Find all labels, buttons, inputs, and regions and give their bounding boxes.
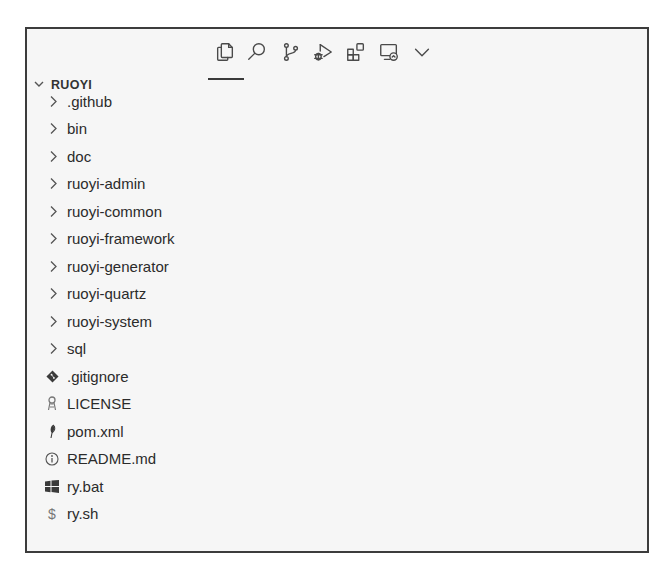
chevron-right-icon (47, 314, 59, 328)
tree-item-label: doc (67, 148, 91, 165)
chevron-right-icon (47, 94, 59, 108)
tree-item-label: README.md (67, 450, 156, 467)
activity-bar (27, 29, 647, 81)
explorer-panel: RUOYI .github bin doc ruoyi-admin ruoyi-… (25, 27, 649, 553)
run-debug-button[interactable] (309, 39, 337, 65)
tree-folder-ruoyi-common[interactable]: ruoyi-common (27, 199, 647, 223)
remote-explorer-icon (378, 41, 400, 63)
source-control-button[interactable] (277, 39, 305, 65)
chevron-right-icon (47, 232, 59, 246)
tree-item-label: ruoyi-quartz (67, 285, 146, 302)
tree-file-readme[interactable]: README.md (27, 447, 647, 471)
extensions-icon (345, 41, 367, 63)
license-icon (44, 396, 60, 412)
tree-item-label: ruoyi-framework (67, 230, 175, 247)
tree-file-ry-bat[interactable]: ry.bat (27, 474, 647, 498)
tree-file-pom-xml[interactable]: pom.xml (27, 419, 647, 443)
chevron-right-icon (47, 287, 59, 301)
tree-folder-ruoyi-framework[interactable]: ruoyi-framework (27, 227, 647, 251)
tree-item-label: ruoyi-common (67, 203, 162, 220)
chevron-right-icon (47, 342, 59, 356)
tree-file-license[interactable]: LICENSE (27, 392, 647, 416)
tree-folder-ruoyi-generator[interactable]: ruoyi-generator (27, 254, 647, 278)
source-control-icon (280, 41, 302, 63)
tree-folder-ruoyi-system[interactable]: ruoyi-system (27, 309, 647, 333)
tree-item-label: LICENSE (67, 395, 131, 412)
tree-file-gitignore[interactable]: .gitignore (27, 364, 647, 388)
chevron-right-icon (47, 259, 59, 273)
tree-item-label: ruoyi-system (67, 313, 152, 330)
git-icon (44, 368, 60, 384)
tree-folder-doc[interactable]: doc (27, 144, 647, 168)
chevron-right-icon (47, 122, 59, 136)
active-tab-indicator (208, 78, 244, 80)
tree-item-label: sql (67, 340, 86, 357)
remote-explorer-button[interactable] (375, 39, 403, 65)
tree-folder-sql[interactable]: sql (27, 337, 647, 361)
tree-item-label: ruoyi-admin (67, 175, 145, 192)
explorer-button[interactable] (211, 39, 239, 65)
run-debug-icon (312, 41, 334, 63)
chevron-down-icon (411, 41, 433, 63)
extensions-button[interactable] (342, 39, 370, 65)
tree-item-label: bin (67, 120, 87, 137)
tree-item-label: ry.bat (67, 478, 103, 495)
tree-item-label: pom.xml (67, 423, 124, 440)
search-button[interactable] (243, 39, 271, 65)
maven-feather-icon (44, 423, 60, 439)
chevron-right-icon (47, 177, 59, 191)
tree-item-label: .gitignore (67, 368, 129, 385)
tree-item-label: ry.sh (67, 505, 98, 522)
chevron-right-icon (47, 149, 59, 163)
tree-folder-github[interactable]: .github (27, 89, 647, 113)
windows-icon (44, 478, 60, 494)
tree-item-label: ruoyi-generator (67, 258, 169, 275)
chevron-right-icon (47, 204, 59, 218)
tree-item-label: .github (67, 93, 112, 110)
files-icon (214, 41, 236, 63)
tree-file-ry-sh[interactable]: $ ry.sh (27, 502, 647, 526)
dollar-icon: $ (44, 506, 60, 522)
tree-folder-bin[interactable]: bin (27, 117, 647, 141)
search-icon (246, 41, 268, 63)
info-icon (44, 451, 60, 467)
tree-folder-ruoyi-admin[interactable]: ruoyi-admin (27, 172, 647, 196)
more-views-button[interactable] (408, 39, 436, 65)
tree-folder-ruoyi-quartz[interactable]: ruoyi-quartz (27, 282, 647, 306)
